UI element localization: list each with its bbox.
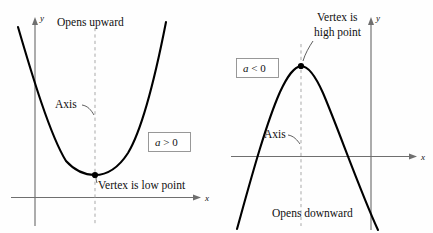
left-coefficient-box: a > 0	[149, 133, 191, 152]
left-opens-upward-label: Opens upward	[57, 16, 124, 29]
left-axis-leader-line	[82, 105, 94, 115]
left-x-axis-arrowhead	[193, 195, 201, 201]
right-x-axis-arrowhead	[409, 154, 417, 160]
right-vertex-caption-line1: Vertex is	[317, 11, 358, 23]
left-y-axis-arrowhead	[32, 17, 38, 25]
right-opens-downward-label: Opens downward	[272, 207, 353, 220]
right-vertex-caption-line2: high point	[314, 26, 362, 39]
left-coefficient-label: a > 0	[155, 136, 178, 148]
right-axis-label: Axis	[264, 128, 286, 140]
right-vertex-leader-line	[303, 41, 313, 61]
left-axis-label: Axis	[55, 98, 77, 110]
right-y-axis-arrowhead	[368, 17, 374, 25]
left-panel-group: y x Opens upward Axis Vertex is low poin…	[11, 13, 209, 226]
right-panel-group: y x Vertex is high point Axis Opens down…	[231, 11, 425, 230]
right-y-axis-label: y	[375, 13, 380, 23]
parabola-figure: y x Opens upward Axis Vertex is low poin…	[0, 0, 433, 233]
right-vertex-point	[298, 63, 304, 69]
left-x-axis-label: x	[204, 193, 209, 203]
right-coefficient-box: a < 0	[237, 59, 279, 78]
left-vertex-point	[92, 172, 98, 178]
figure-canvas: y x Opens upward Axis Vertex is low poin…	[0, 0, 433, 233]
right-parabola-curve	[237, 66, 378, 230]
right-x-axis-label: x	[420, 152, 425, 162]
right-coefficient-label: a < 0	[243, 62, 266, 74]
left-vertex-caption: Vertex is low point	[98, 179, 186, 192]
left-vertex-leader-line	[96, 177, 97, 183]
left-y-axis-label: y	[39, 13, 44, 23]
right-axis-leader-line	[288, 135, 300, 144]
left-parabola-curve	[18, 22, 166, 175]
